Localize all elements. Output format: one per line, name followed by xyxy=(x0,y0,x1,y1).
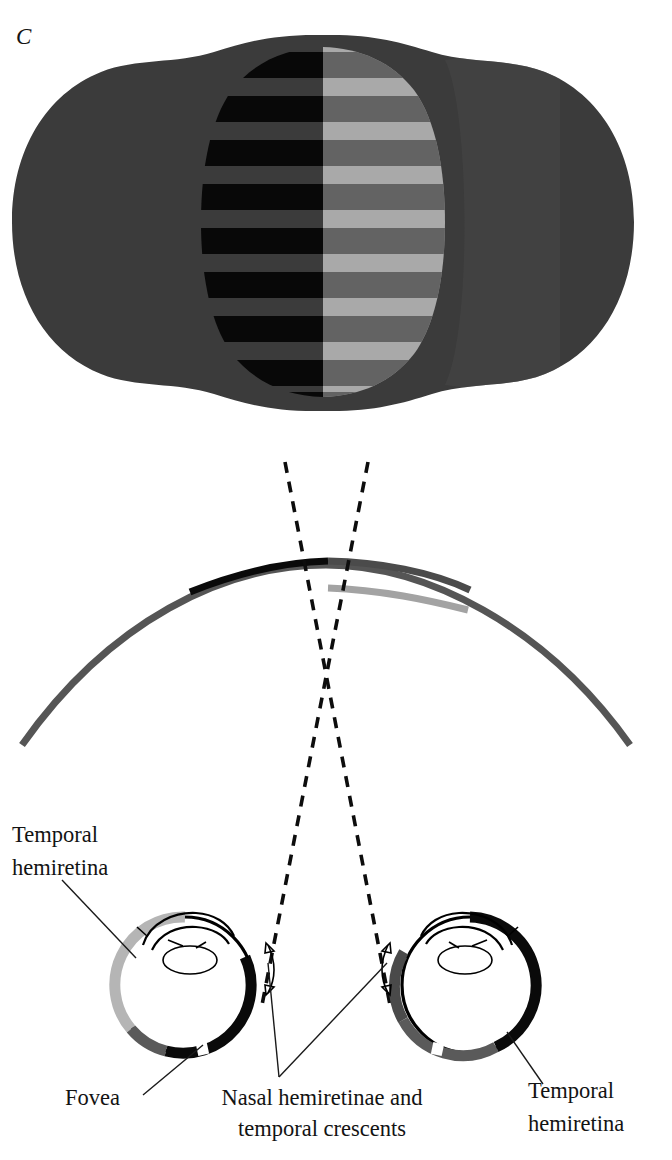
crescent-brackets xyxy=(265,943,391,995)
panel-label: C xyxy=(16,24,32,49)
leader-temporal-right xyxy=(507,1032,543,1084)
figure-canvas: C xyxy=(0,0,672,1160)
label-temporal-hemiretina-left-line2: hemiretina xyxy=(12,855,108,880)
label-temporal-hemiretina-right-line2: hemiretina xyxy=(528,1111,624,1136)
right-eye-diagram xyxy=(394,913,538,1056)
full-field-arc xyxy=(22,565,630,745)
label-temporal-hemiretina-right-line1: Temporal xyxy=(528,1078,614,1103)
left-eye-diagram xyxy=(115,913,253,1056)
field-base xyxy=(0,20,672,420)
ray-right-to-left-eye xyxy=(262,462,368,1005)
ray-left-to-right-eye xyxy=(285,462,390,1005)
horopter-group xyxy=(22,462,630,1005)
binocular-visual-field xyxy=(0,20,672,420)
label-nasal-line2: temporal crescents xyxy=(238,1116,406,1141)
leader-nasal-right xyxy=(279,963,387,1077)
label-temporal-hemiretina-left-line1: Temporal xyxy=(12,822,98,847)
label-nasal-line1: Nasal hemiretinae and xyxy=(221,1085,422,1110)
label-fovea: Fovea xyxy=(65,1085,120,1110)
left-eye-arc xyxy=(190,561,328,592)
figure-root: C xyxy=(0,0,672,1160)
leader-temporal-left xyxy=(62,880,136,958)
